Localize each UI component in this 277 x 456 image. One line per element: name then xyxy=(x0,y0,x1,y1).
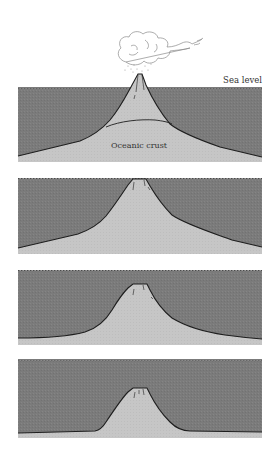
sea-surface-line xyxy=(18,270,262,272)
oceanic-crust-label: Oceanic crust xyxy=(111,141,168,150)
panel-4-guyot xyxy=(18,359,262,438)
sea-surface-line xyxy=(18,359,262,361)
panel-3-subsided-seamount xyxy=(18,270,262,345)
panel-1-erupting-volcano: Sea level Oceanic crust xyxy=(18,32,262,162)
eruption-cloud-icon xyxy=(118,32,203,73)
panel-2-eroded-island xyxy=(18,178,262,254)
volcanic-island-subsidence-diagram: Sea level Oceanic crust xyxy=(0,0,277,456)
sea-level-label: Sea level xyxy=(223,75,262,85)
